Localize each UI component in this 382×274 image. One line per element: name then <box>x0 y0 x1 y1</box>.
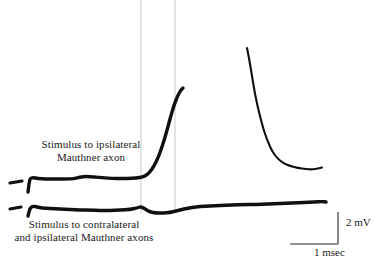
upper-trace-decay <box>247 48 322 169</box>
timing-lines-group <box>141 0 175 213</box>
upper-trace-label: Stimulus to ipsilateral Mauthner axon <box>24 138 158 163</box>
electrophysiology-figure: Stimulus to ipsilateral Mauthner axon St… <box>0 0 382 274</box>
upper-trace-label-line1: Stimulus to ipsilateral <box>24 138 158 151</box>
stimulus-markers-group <box>10 181 22 209</box>
upper-trace-label-line2: Mauthner axon <box>24 151 158 164</box>
scale-bar-group <box>290 212 338 244</box>
vertical-scale-label: 2 mV <box>346 216 371 228</box>
lower-trace-label-line2: and ipsilateral Mauthner axons <box>4 231 164 244</box>
horizontal-scale-label: 1 msec <box>314 246 345 258</box>
lower-trace-baseline <box>28 202 326 216</box>
lower-trace-label-line1: Stimulus to contralateral <box>4 218 164 231</box>
traces-group <box>28 48 326 216</box>
stimulus-marker-upper <box>10 181 22 183</box>
stimulus-marker-lower <box>10 207 21 209</box>
lower-trace-label: Stimulus to contralateral and ipsilatera… <box>4 218 164 243</box>
